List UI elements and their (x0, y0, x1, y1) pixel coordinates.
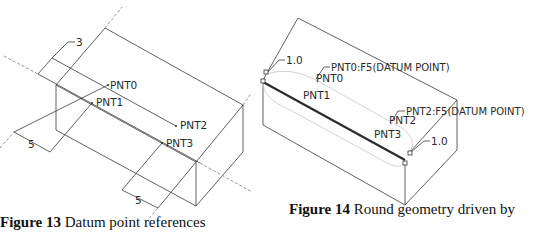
figure-13-points (91, 84, 177, 144)
dashed-axis (4, 56, 38, 74)
drag-handle-corner-right[interactable] (403, 161, 407, 165)
figure-14-number: Figure 14 (289, 201, 350, 217)
figure-14-caption: Figure 14 Round geometry driven by (289, 201, 515, 218)
ref-line (14, 85, 108, 132)
dimension-3: 3 (76, 36, 83, 48)
figure-13-drawing (0, 7, 252, 222)
label-pnt1: PNT1 (96, 96, 123, 108)
datum-point-pnt2 (175, 125, 177, 127)
label-pnt0-full: PNT0:F5(DATUM POINT) (331, 62, 450, 73)
figure-13-number: Figure 13 (0, 214, 61, 230)
ref-line (122, 143, 162, 190)
block-edge (298, 18, 457, 100)
dashed-axis (0, 132, 14, 148)
block-edge (56, 85, 196, 162)
drag-handle-corner-left[interactable] (261, 79, 265, 83)
label-pnt0: PNT0 (316, 72, 343, 84)
dimension-5-bottom: 5 (135, 194, 142, 206)
drag-handle-bottom[interactable] (408, 151, 412, 155)
radius-label-top: 1.0 (286, 54, 303, 66)
label-pnt3: PNT3 (166, 137, 193, 149)
datum-point-pnt1 (91, 102, 93, 104)
label-pnt2: PNT2 (389, 114, 416, 126)
figure-13-caption-text: Datum point references (65, 214, 206, 230)
drawing-canvas: PNT0 PNT1 PNT2 PNT3 3 5 5 1.0 PN (0, 0, 555, 232)
label-pnt1: PNT1 (303, 89, 330, 101)
label-pnt0: PNT0 (110, 79, 137, 91)
label-pnt2-full: PNT2:F5(DATUM POINT) (406, 106, 525, 117)
dashed-axis (200, 163, 252, 192)
rounded-edge (263, 82, 405, 160)
radius-label-bottom: 1.0 (431, 135, 448, 147)
dimension-leader (52, 42, 75, 58)
figure-14-caption-text: Round geometry driven by (354, 201, 515, 217)
block-edge (105, 28, 243, 105)
dashed-axis (243, 95, 250, 105)
dimension-line (38, 58, 52, 74)
datum-point-pnt3 (161, 142, 163, 144)
drag-handle-top[interactable] (264, 70, 268, 74)
block-edge (405, 150, 457, 205)
radius-leader-bottom (411, 141, 430, 152)
dimension-5-left: 5 (28, 138, 35, 150)
figure-13-caption: Figure 13 Datum point references (0, 214, 206, 231)
label-pnt2: PNT2 (180, 119, 207, 131)
datum-point-pnt0 (107, 84, 109, 86)
ref-line (158, 162, 196, 208)
block-edge (196, 152, 243, 206)
label-pnt3: PNT3 (374, 128, 401, 140)
block-edge (196, 105, 243, 162)
dashed-axis (105, 7, 122, 28)
